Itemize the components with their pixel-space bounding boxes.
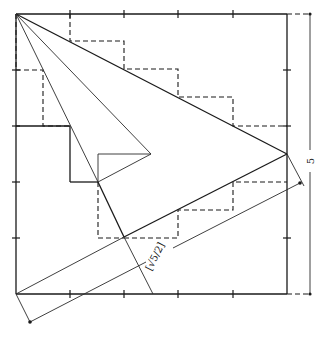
dissection-diagram: [√5/2] 5 bbox=[0, 0, 324, 339]
side-length-label: 5 bbox=[305, 158, 316, 164]
diagonal-dimension: [√5/2] bbox=[16, 154, 304, 324]
inner-bold-edges bbox=[16, 126, 98, 182]
side-dimension: 5 bbox=[305, 12, 316, 295]
diagonal-length-label: [√5/2] bbox=[143, 240, 167, 272]
